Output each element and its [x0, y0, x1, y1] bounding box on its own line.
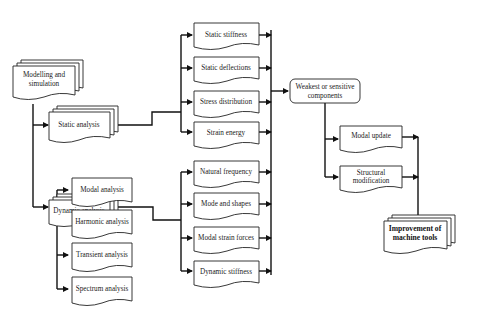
node-label-line: simulation [29, 80, 60, 88]
node-label: Modal update [351, 132, 391, 140]
node-static-deflections: Static deflections [194, 57, 259, 84]
node-label: Spectrum analysis [76, 285, 129, 293]
node-weakest-components: Weakest or sensitive components [290, 79, 360, 103]
node-label: Modal analysis [80, 186, 124, 194]
node-natural-frequency: Natural frequency [194, 161, 259, 188]
node-label: Harmonic analysis [75, 218, 129, 226]
node-label: Static deflections [201, 64, 251, 72]
node-dynamic-stiffness: Dynamic stiffness [194, 261, 259, 288]
node-label-line: Modelling and [23, 71, 66, 79]
node-spectrum-analysis: Spectrum analysis [72, 277, 132, 306]
node-label-line: machine tools [393, 233, 438, 242]
node-label: Strain energy [207, 129, 246, 137]
node-stress-distribution: Stress distribution [194, 91, 259, 118]
node-modal-update: Modal update [340, 126, 402, 153]
node-improvement-machine-tools: Improvement of machine tools [384, 215, 455, 254]
node-label: Modal strain forces [198, 234, 254, 242]
node-label-line: modification [353, 177, 390, 185]
node-strain-energy: Strain energy [194, 122, 259, 149]
node-static-analysis: Static analysis [49, 106, 118, 143]
node-modal-strain-forces: Modal strain forces [194, 227, 259, 254]
node-label: Transient analysis [76, 251, 128, 259]
node-label: Stress distribution [200, 98, 253, 106]
flowchart-canvas: Modelling and simulation Static analysis… [0, 0, 478, 317]
node-static-stiffness: Static stiffness [194, 23, 259, 50]
node-modelling-simulation: Modelling and simulation [13, 60, 83, 100]
node-structural-modification: Structural modification [340, 166, 402, 193]
node-modal-analysis: Modal analysis [72, 178, 132, 207]
node-label: Dynamic stiffness [200, 268, 252, 276]
node-label-line: Weakest or sensitive [296, 83, 355, 91]
node-label-line: components [308, 92, 343, 100]
node-label-line: Structural [357, 169, 385, 177]
node-label: Static stiffness [205, 31, 247, 39]
node-harmonic-analysis: Harmonic analysis [72, 210, 132, 239]
node-label: Mode and shapes [201, 200, 251, 208]
node-label: Natural frequency [200, 168, 252, 176]
node-label: Static analysis [58, 121, 100, 129]
node-mode-shapes: Mode and shapes [194, 193, 259, 220]
node-label-line: Improvement of [389, 224, 442, 233]
node-transient-analysis: Transient analysis [72, 243, 132, 272]
